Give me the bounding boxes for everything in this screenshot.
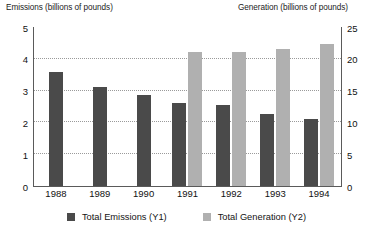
bar-group: [34, 27, 78, 186]
left-axis-tick-label: 1: [23, 151, 28, 161]
x-axis-label: 1990: [122, 189, 166, 199]
right-axis-title: Generation (billions of pounds): [238, 3, 348, 12]
right-axis-tick-label: 15: [347, 87, 358, 97]
x-axis-label: 1988: [34, 189, 78, 199]
legend-swatch-icon: [203, 213, 211, 221]
left-axis-tick-label: 0: [23, 183, 28, 193]
right-axis-tick-label: 25: [347, 24, 358, 34]
bar-emissions: [304, 119, 318, 186]
legend-label: Total Generation (Y2): [218, 212, 306, 222]
x-axis-label: 1994: [297, 189, 341, 199]
bar-generation: [320, 44, 334, 186]
right-axis-tick-label: 0: [347, 183, 352, 193]
right-axis-tick-label: 5: [347, 151, 352, 161]
chart-legend: Total Emissions (Y1)Total Generation (Y2…: [0, 209, 373, 225]
x-axis-label: 1991: [166, 189, 210, 199]
x-axis-category-labels: 1988198919901991199219931994: [34, 189, 341, 203]
left-axis-tick-labels: 012345: [14, 27, 28, 187]
x-axis-label: 1992: [209, 189, 253, 199]
legend-entry: Total Generation (Y2): [203, 212, 306, 222]
right-axis-tick-label: 10: [347, 119, 358, 129]
bar-emissions: [137, 95, 151, 186]
left-axis-title: Emissions (billions of pounds): [6, 3, 113, 12]
bar-emissions: [93, 87, 107, 186]
right-axis-spine: [341, 27, 342, 187]
right-axis-tick-labels: 0510152025: [347, 27, 367, 187]
x-axis-baseline: [33, 186, 342, 187]
bar-emissions: [172, 103, 186, 186]
bar-group: [166, 27, 210, 186]
dual-axis-bar-chart: Emissions (billions of pounds) Generatio…: [0, 0, 373, 234]
bar-generation: [232, 52, 246, 186]
x-axis-label: 1993: [253, 189, 297, 199]
bar-generation: [276, 49, 290, 186]
bar-group: [122, 27, 166, 186]
bar-generation: [188, 52, 202, 186]
plot-area: [34, 27, 341, 186]
left-axis-tick-label: 3: [23, 87, 28, 97]
bar-emissions: [260, 114, 274, 186]
x-axis-label: 1989: [78, 189, 122, 199]
legend-swatch-icon: [67, 213, 75, 221]
left-axis-tick-label: 4: [23, 55, 28, 65]
bar-group: [253, 27, 297, 186]
bar-group: [78, 27, 122, 186]
bar-group: [297, 27, 341, 186]
legend-label: Total Emissions (Y1): [82, 212, 167, 222]
right-axis-tick-label: 20: [347, 55, 358, 65]
left-axis-tick-label: 5: [23, 24, 28, 34]
bar-emissions: [49, 72, 63, 186]
bar-group: [209, 27, 253, 186]
bar-emissions: [216, 105, 230, 186]
left-axis-tick-label: 2: [23, 119, 28, 129]
legend-entry: Total Emissions (Y1): [67, 212, 167, 222]
